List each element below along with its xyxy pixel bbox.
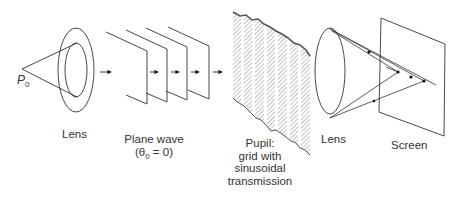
point-source-label: P0: [17, 74, 29, 91]
diffracted-rays: [330, 29, 436, 118]
plane-wave-angle: (θ0 = 0): [121, 146, 187, 163]
lens-1: [58, 28, 94, 112]
lens-2: [315, 28, 345, 114]
point-subscript: 0: [25, 80, 29, 89]
plane-wave-fronts: [106, 27, 209, 104]
pupil-label: Pupil: grid with sinusoidal transmission: [220, 137, 300, 187]
point-label: P: [17, 73, 25, 87]
lens-1-label: Lens: [62, 128, 87, 141]
pupil-grid: [233, 12, 310, 155]
plane-wave-label: Plane wave (θ0 = 0): [121, 133, 187, 163]
lens-2-label: Lens: [321, 133, 346, 146]
point-source-cone: [22, 43, 77, 97]
plane-wave-title: Plane wave: [121, 133, 187, 146]
screen-label: Screen: [391, 139, 427, 152]
